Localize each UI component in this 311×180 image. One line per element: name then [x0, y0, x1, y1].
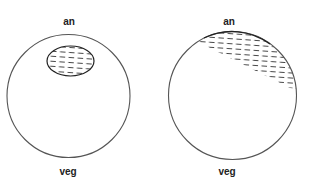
left-shaded-patch — [47, 46, 94, 76]
right-animal-pole-label: an — [223, 16, 235, 27]
left-embryo: an veg — [7, 16, 130, 177]
right-embryo: an veg — [160, 16, 311, 177]
left-vegetal-pole-label: veg — [59, 166, 76, 177]
left-animal-pole-label: an — [63, 16, 75, 27]
right-vegetal-pole-label: veg — [218, 166, 235, 177]
diagram-canvas: an veg an veg — [0, 0, 311, 180]
